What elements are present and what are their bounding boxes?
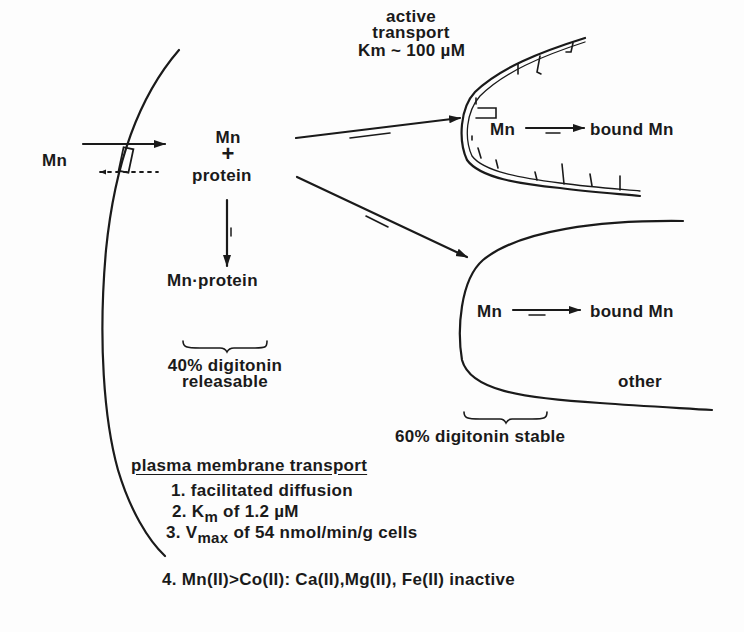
protein-label: protein <box>192 167 252 184</box>
extracellular-mn-label: Mn <box>42 152 67 169</box>
brace-40 <box>183 341 267 352</box>
to-other-arrow <box>297 177 467 257</box>
digitonin-stable-label: 60% digitonin stable <box>395 428 565 445</box>
mn-transport-diagram: Mn Mn + protein Mn·protein 40% digitonin… <box>0 0 744 632</box>
vacuole-membrane <box>462 38 640 196</box>
digitonin-releasable-line2: releasable <box>145 373 305 390</box>
vacuole-bound-mn-label: bound Mn <box>590 121 674 138</box>
other-mn-label: Mn <box>477 303 502 320</box>
active-transport-line2: transport <box>340 24 482 41</box>
plus-sign: + <box>213 143 243 165</box>
pm-item-2: 2. Km of 1.2 µM <box>172 503 299 524</box>
other-bound-mn-label: bound Mn <box>590 303 674 320</box>
pm-item-4: 4. Mn(II)>Co(II): Ca(II),Mg(II), Fe(II) … <box>162 571 515 588</box>
plasma-membrane-curve <box>102 50 179 556</box>
mn-protein-label: Mn·protein <box>167 272 258 289</box>
other-compartment-label: other <box>618 373 662 390</box>
pm-item-1: 1. facilitated diffusion <box>171 482 353 499</box>
pm-item-3: 3. Vmax of 54 nmol/min/g cells <box>166 524 418 545</box>
active-transport-km: Km ~ 100 µM <box>358 42 465 59</box>
plasma-membrane-title: plasma membrane transport <box>131 457 367 474</box>
brace-60 <box>464 412 547 423</box>
vacuole-mn-label: Mn <box>490 121 515 138</box>
